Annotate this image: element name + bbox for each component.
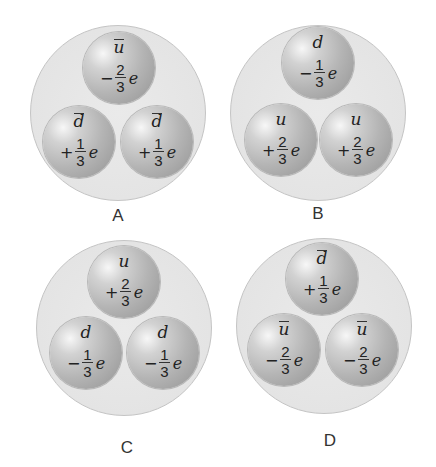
quark-symbol: d xyxy=(121,112,193,130)
panel-label: A xyxy=(98,206,138,226)
panel-label: D xyxy=(310,431,350,451)
quark-charge: + 13 e xyxy=(43,136,115,168)
charge-unit: e xyxy=(332,280,341,299)
charge-unit: e xyxy=(294,351,303,370)
charge-unit: e xyxy=(134,283,143,302)
quark-charge: − 23 e xyxy=(326,344,398,376)
panel-a: u − 23 e d + 13 e d + 13 e A xyxy=(18,0,218,230)
charge-sign: + xyxy=(303,280,316,299)
charge-fraction: 23 xyxy=(352,134,362,166)
quark-symbol: u xyxy=(248,320,320,338)
charge-unit: e xyxy=(89,143,98,162)
quark-top: u − 23 e xyxy=(83,32,155,104)
charge-unit: e xyxy=(366,141,375,160)
charge-fraction: 23 xyxy=(115,62,125,94)
charge-unit: e xyxy=(291,141,300,160)
panel-c: u + 23 e d − 13 e d − 13 e C xyxy=(24,234,224,464)
charge-sign: − xyxy=(343,351,356,370)
quark-charge: − 23 e xyxy=(248,344,320,376)
quark-symbol: d xyxy=(286,249,358,267)
charge-sign: − xyxy=(299,64,312,83)
quark-symbol: u xyxy=(326,320,398,338)
quark-charge: + 13 e xyxy=(286,273,358,305)
quark-bottom-left: d + 13 e xyxy=(43,106,115,178)
charge-unit: e xyxy=(328,64,337,83)
quark-charge: + 23 e xyxy=(88,276,160,308)
charge-sign: − xyxy=(265,351,278,370)
quark-bottom-left: u − 23 e xyxy=(248,314,320,386)
charge-fraction: 23 xyxy=(120,276,130,308)
quark-top: d − 13 e xyxy=(282,27,354,99)
quark-charge: + 13 e xyxy=(121,136,193,168)
quark-bottom-right: u − 23 e xyxy=(326,314,398,386)
quark-symbol: u xyxy=(83,38,155,56)
charge-sign: + xyxy=(105,283,118,302)
charge-fraction: 13 xyxy=(314,57,324,89)
quark-charge: + 23 e xyxy=(320,134,392,166)
quark-bottom-right: d − 13 e xyxy=(127,317,199,389)
panel-d: d + 13 e u − 23 e u − 23 e D xyxy=(224,234,424,464)
panel-label: B xyxy=(298,204,338,224)
charge-unit: e xyxy=(96,354,105,373)
quark-charge: + 23 e xyxy=(245,134,317,166)
charge-fraction: 13 xyxy=(82,347,92,379)
quark-symbol: d xyxy=(43,112,115,130)
charge-sign: − xyxy=(100,69,113,88)
quark-symbol: d xyxy=(127,323,199,341)
panel-b: d − 13 e u + 23 e u + 23 e B xyxy=(218,0,418,230)
quark-symbol: d xyxy=(50,323,122,341)
quark-symbol: u xyxy=(245,110,317,128)
quark-charge: − 13 e xyxy=(282,57,354,89)
panel-label: C xyxy=(107,438,147,458)
quark-charge: − 13 e xyxy=(50,347,122,379)
quark-bottom-left: d − 13 e xyxy=(50,317,122,389)
quark-symbol: u xyxy=(88,252,160,270)
charge-unit: e xyxy=(173,354,182,373)
quark-bottom-right: u + 23 e xyxy=(320,104,392,176)
charge-sign: + xyxy=(262,141,275,160)
charge-fraction: 13 xyxy=(159,347,169,379)
quark-top: u + 23 e xyxy=(88,246,160,318)
quark-bottom-right: d + 13 e xyxy=(121,106,193,178)
charge-fraction: 23 xyxy=(358,344,368,376)
quark-symbol: u xyxy=(320,110,392,128)
charge-fraction: 13 xyxy=(75,136,85,168)
quark-charge: − 23 e xyxy=(83,62,155,94)
charge-fraction: 23 xyxy=(280,344,290,376)
quark-top: d + 13 e xyxy=(286,243,358,315)
charge-fraction: 13 xyxy=(153,136,163,168)
charge-unit: e xyxy=(167,143,176,162)
quark-symbol: d xyxy=(282,33,354,51)
charge-sign: + xyxy=(60,143,73,162)
charge-sign: − xyxy=(67,354,80,373)
quark-bottom-left: u + 23 e xyxy=(245,104,317,176)
charge-fraction: 23 xyxy=(277,134,287,166)
charge-unit: e xyxy=(372,351,381,370)
charge-fraction: 13 xyxy=(318,273,328,305)
charge-unit: e xyxy=(129,69,138,88)
charge-sign: − xyxy=(144,354,157,373)
quark-charge: − 13 e xyxy=(127,347,199,379)
charge-sign: + xyxy=(337,141,350,160)
charge-sign: + xyxy=(138,143,151,162)
